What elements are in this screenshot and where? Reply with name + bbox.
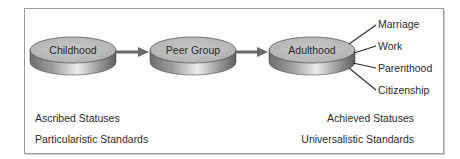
disk-peer-group: Peer Group — [150, 37, 236, 75]
stage-label-peer-group: Peer Group — [166, 44, 220, 56]
branch-label-marriage: Marriage — [378, 18, 419, 30]
disk-childhood: Childhood — [30, 37, 116, 75]
note-ascribed-statuses: Ascribed Statuses — [35, 112, 120, 124]
note-achieved-statuses: Achieved Statuses — [327, 112, 414, 124]
branch-label-citizenship: Citizenship — [378, 84, 429, 96]
note-universalistic-standards: Universalistic Standards — [301, 133, 414, 145]
stage-label-childhood: Childhood — [49, 44, 96, 56]
disk-adulthood: Adulthood — [269, 37, 355, 75]
stage-label-adulthood: Adulthood — [288, 44, 335, 56]
arrow-icon — [236, 47, 268, 57]
branch-label-parenthood: Parenthood — [378, 62, 432, 74]
note-particularistic-standards: Particularistic Standards — [35, 133, 148, 145]
arrow-icon — [116, 47, 149, 57]
branch-label-work: Work — [378, 40, 402, 52]
